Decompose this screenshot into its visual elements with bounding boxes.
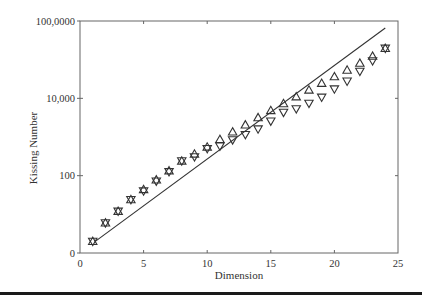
lower-bound-marker	[356, 68, 364, 75]
upper-bound-marker	[203, 143, 211, 150]
lower-bound-marker	[305, 100, 313, 107]
x-tick-label: 15	[266, 258, 277, 269]
lower-bound-marker	[292, 106, 300, 113]
y-axis-label: Kissing Number	[27, 111, 39, 184]
upper-bound-marker	[254, 113, 262, 120]
upper-bound-marker	[356, 59, 364, 66]
kissing-number-chart: 0510152025 010010,000100,0000 Dimension …	[0, 0, 422, 300]
lower-bound-marker	[330, 86, 338, 93]
upper-bound-marker	[317, 79, 325, 86]
y-tick-label: 100,0000	[36, 16, 75, 27]
lower-bound-marker	[267, 118, 275, 125]
y-tick-label: 0	[70, 248, 75, 259]
upper-bound-marker	[330, 72, 338, 79]
lower-bound-marker	[343, 78, 351, 85]
y-tick-label: 10,000	[46, 93, 75, 104]
lower-bound-marker	[317, 94, 325, 101]
lower-bound-marker	[216, 143, 224, 150]
data-markers	[89, 44, 390, 245]
lower-bound-marker	[279, 109, 287, 116]
y-tick-label: 100	[59, 170, 75, 181]
upper-bound-marker	[241, 121, 249, 128]
x-tick-label: 0	[77, 258, 82, 269]
x-axis-ticks: 0510152025	[77, 21, 403, 269]
x-tick-label: 10	[202, 258, 213, 269]
x-axis-label: Dimension	[215, 269, 264, 281]
upper-bound-marker	[228, 128, 236, 135]
x-tick-label: 5	[141, 258, 146, 269]
upper-bound-marker	[139, 185, 147, 192]
upper-bound-marker	[343, 66, 351, 73]
trend-line	[95, 28, 385, 241]
y-axis-ticks: 010010,000100,0000	[36, 16, 398, 259]
x-tick-label: 25	[393, 258, 404, 269]
plot-frame	[80, 21, 398, 253]
lower-bound-marker	[203, 145, 211, 152]
lower-bound-marker	[139, 188, 147, 195]
x-tick-label: 20	[329, 258, 340, 269]
bottom-rule-divider	[0, 292, 422, 295]
lower-bound-marker	[241, 131, 249, 138]
lower-bound-marker	[254, 126, 262, 133]
upper-bound-marker	[216, 135, 224, 142]
